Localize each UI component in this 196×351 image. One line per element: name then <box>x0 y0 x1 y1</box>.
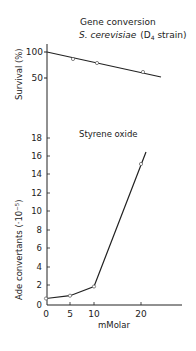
ytick: 14 <box>31 169 42 179</box>
ytick: 16 <box>31 151 42 161</box>
convertants-axis-label: Ade convertants (·10⁻⁵) <box>14 200 24 300</box>
ytick: 10 <box>31 206 42 216</box>
xtick: 10 <box>88 309 100 319</box>
chart-subtitle: S. cerevisiae(D4 strain) <box>79 30 187 41</box>
convertants-panel: Styrene oxide 18 16 14 12 10 8 6 4 2 0 A… <box>14 118 182 330</box>
xtick: 0 <box>43 309 49 319</box>
xtick: 20 <box>135 309 147 319</box>
ytick: 6 <box>37 243 42 253</box>
ytick: 2 <box>37 280 42 290</box>
xtick: 5 <box>67 309 73 319</box>
styrene-oxide-label: Styrene oxide <box>79 129 138 139</box>
ytick: 18 <box>31 133 42 143</box>
x-axis-label: mMolar <box>98 320 130 330</box>
ytick: 4 <box>37 262 42 272</box>
convertants-line <box>46 152 146 299</box>
ytick: 0 <box>37 300 42 310</box>
ytick: 8 <box>37 225 42 235</box>
survival-axis-label: Survival (%) <box>14 48 24 100</box>
ytick: 12 <box>31 188 42 198</box>
chart: Gene conversion S. cerevisiae(D4 strain)… <box>0 0 196 351</box>
chart-title: Gene conversion <box>80 17 156 27</box>
survival-tick-100: 100 <box>26 47 43 57</box>
survival-panel: 100 50 Survival (%) <box>14 44 161 118</box>
survival-tick-50: 50 <box>32 73 44 83</box>
